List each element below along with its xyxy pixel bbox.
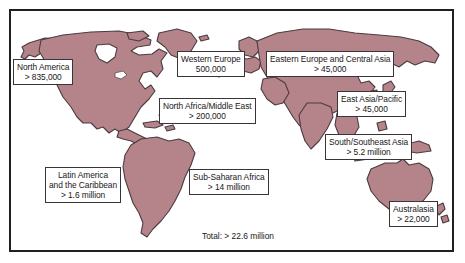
- region-label-sub-saharan-africa[interactable]: Sub-Saharan Africa > 14 million: [189, 169, 269, 195]
- world-landmass-map: [11, 11, 452, 250]
- region-value-line: > 835,000: [17, 72, 69, 82]
- region-value-line: > 45,000: [270, 64, 390, 74]
- region-label-line: Sub-Saharan Africa: [193, 172, 265, 182]
- world-map-figure: North America > 835,000 Western Europe 5…: [0, 0, 465, 263]
- region-label-south-southeast-asia[interactable]: South/Southeast Asia > 5.2 million: [325, 134, 412, 160]
- region-value-line: > 200,000: [163, 111, 252, 121]
- region-label-western-europe[interactable]: Western Europe 500,000: [177, 51, 245, 77]
- landmass-new-zealand-south: [441, 215, 449, 223]
- region-label-australasia[interactable]: Australasia > 22,000: [389, 201, 438, 227]
- region-label-north-africa-middle-east[interactable]: North Africa/Middle East > 200,000: [159, 98, 256, 124]
- region-value-line: > 14 million: [193, 182, 265, 192]
- region-label-line: Latin America: [49, 170, 117, 180]
- landmass-south-america: [123, 137, 195, 237]
- region-label-line: Western Europe: [181, 54, 241, 64]
- region-label-line: East Asia/Pacific: [341, 94, 402, 104]
- region-label-line: Australasia: [393, 204, 434, 214]
- region-value-line: > 22,000: [393, 214, 434, 224]
- landmass-philippines: [377, 121, 387, 131]
- region-value-line: > 5.2 million: [329, 147, 408, 157]
- landmass-iceland: [199, 35, 209, 41]
- region-value-line: > 45,000: [341, 104, 402, 114]
- region-label-latin-america-and-the-caribbean[interactable]: Latin America and the Caribbean > 1.6 mi…: [45, 167, 121, 203]
- region-label-north-america[interactable]: North America > 835,000: [13, 59, 73, 85]
- region-label-line: North America: [17, 62, 69, 72]
- landmass-lesser-antilles: [165, 125, 175, 131]
- region-label-line: North Africa/Middle East: [163, 101, 252, 111]
- region-value-line: > 1.6 million: [49, 190, 117, 200]
- region-label-eastern-europe-and-central-asia[interactable]: Eastern Europe and Central Asia > 45,000: [266, 51, 394, 77]
- region-label-line-2: and the Caribbean: [49, 180, 117, 190]
- region-value-line: 500,000: [181, 64, 241, 74]
- region-label-east-asia-pacific[interactable]: East Asia/Pacific > 45,000: [337, 91, 406, 117]
- region-label-line: South/Southeast Asia: [329, 137, 408, 147]
- region-label-line: Eastern Europe and Central Asia: [270, 54, 390, 64]
- total-caption: Total: > 22.6 million: [173, 231, 303, 241]
- map-frame: North America > 835,000 Western Europe 5…: [9, 9, 454, 252]
